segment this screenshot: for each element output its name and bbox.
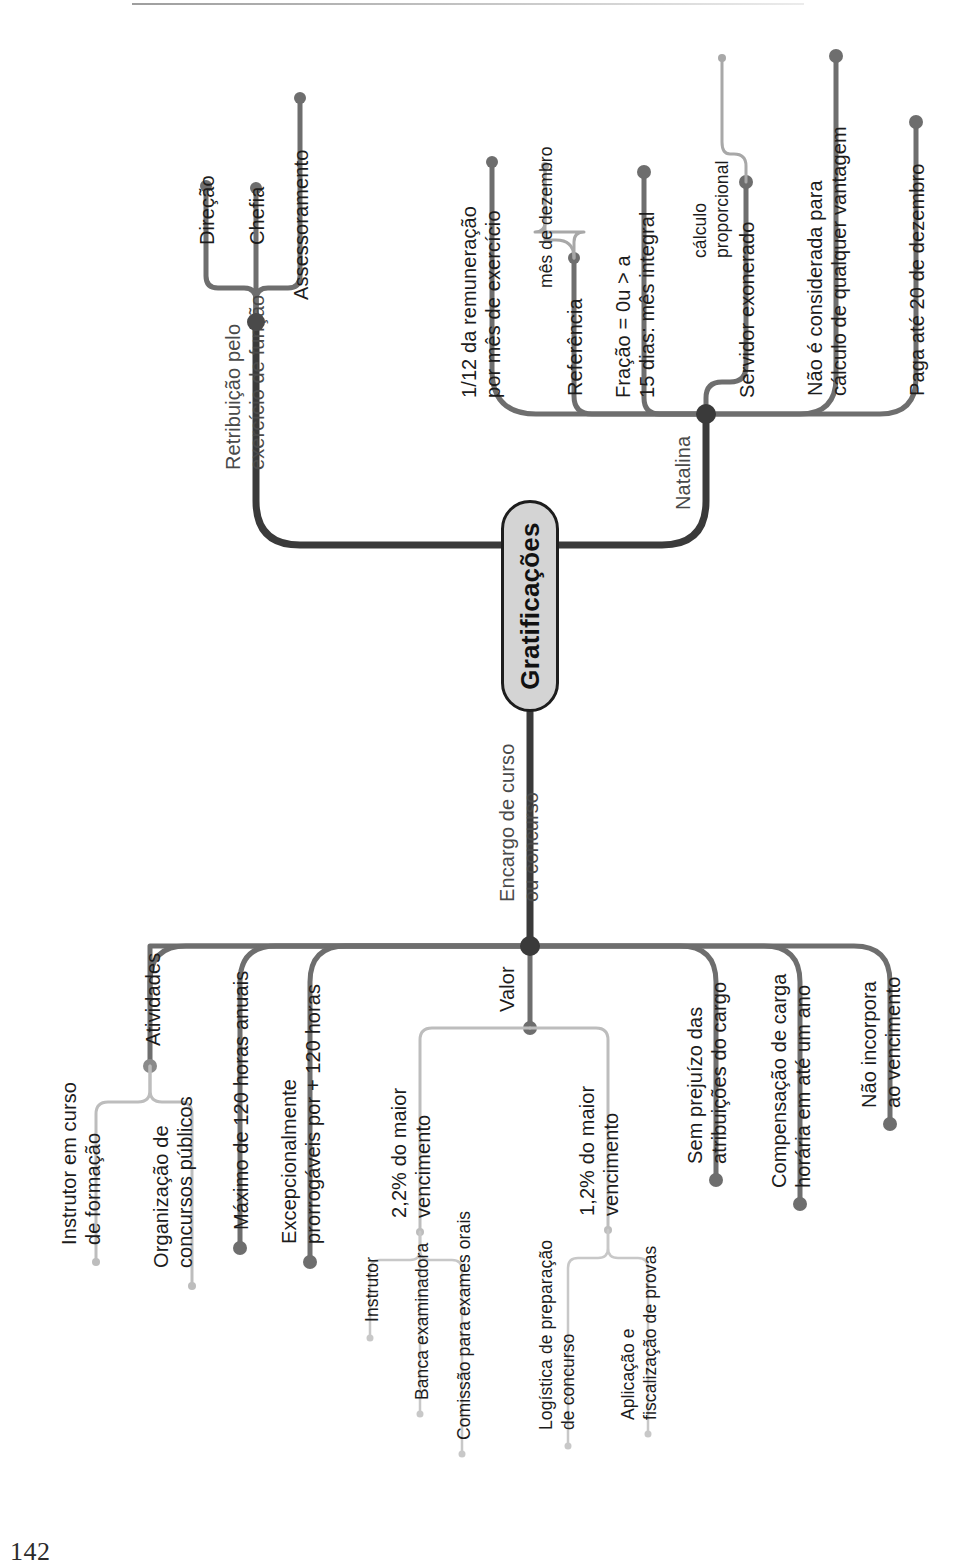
label-instrutor[interactable]: Instrutor	[362, 1257, 382, 1322]
branch-1-12	[492, 162, 706, 414]
branch-atividades-stem	[150, 946, 530, 1066]
mindmap-page: Gratificações Direção Chefia Assessorame…	[0, 0, 961, 1565]
label-valor[interactable]: Valor	[496, 966, 519, 1012]
label-encargo-line2[interactable]: ou concurso	[520, 792, 543, 902]
label-aplicacao-line1[interactable]: Aplicação e	[618, 1328, 638, 1420]
branch-atividades	[150, 946, 530, 1000]
dot-nao-considerada	[829, 49, 843, 63]
label-paga-ate[interactable]: Paga até 20 de dezembro	[906, 164, 929, 396]
label-2-2-line1[interactable]: 2,2% do maior	[388, 1088, 411, 1218]
label-comissao[interactable]: Comissão para exames orais	[454, 1211, 474, 1440]
label-maximo-120[interactable]: Máximo de 120 horas anuais	[230, 971, 253, 1230]
dot-comissao	[459, 1451, 466, 1458]
label-1-2-line1[interactable]: 1,2% do maior	[576, 1086, 599, 1216]
dot-sem-prejuizo	[709, 1173, 723, 1187]
label-fracao-line2[interactable]: 15 dias: mês integral	[636, 211, 659, 398]
label-retribuicao-line2[interactable]: exercício de função	[246, 295, 269, 470]
dot-paga-ate	[909, 115, 923, 129]
label-calculo-line2[interactable]: proporcional	[712, 160, 732, 258]
dot-organizacao	[188, 1282, 196, 1290]
label-nao-considerada-line1[interactable]: Não é considerada para	[804, 180, 827, 396]
branch-2-2	[420, 1028, 530, 1232]
label-compensacao-line2[interactable]: horária em até um ano	[792, 985, 815, 1188]
page-number: 142	[10, 1537, 51, 1565]
label-nao-considerada-line2[interactable]: cálculo de qualquer vantagem	[828, 126, 851, 396]
label-logistica-line2[interactable]: de concurso	[558, 1334, 578, 1430]
dot-logistica	[565, 1443, 572, 1450]
root-node[interactable]: Gratificações	[501, 500, 559, 712]
dot-maximo-120	[233, 1241, 247, 1255]
label-organizacao-line2[interactable]: concursos públicos	[174, 1096, 197, 1268]
hub-natalina	[696, 404, 716, 424]
label-instrutor-curso-line2[interactable]: de formação	[82, 1133, 105, 1245]
label-1-12-line1[interactable]: 1/12 da remuneração	[458, 206, 481, 398]
label-sem-prejuizo-line1[interactable]: Sem prejuízo das	[684, 1007, 707, 1164]
label-organizacao-line1[interactable]: Organização de	[150, 1125, 173, 1268]
dot-aplicacao	[645, 1431, 652, 1438]
dot-calculo-proporcional	[718, 54, 726, 62]
label-mes-dezembro[interactable]: mês de dezembro	[536, 146, 556, 288]
dot-instrutor-curso	[92, 1258, 100, 1266]
label-calculo-line1[interactable]: cálculo	[690, 203, 710, 258]
root-node-label: Gratificações	[515, 522, 546, 689]
label-excepcionalmente-line1[interactable]: Excepcionalmente	[278, 1079, 301, 1244]
dot-assessoramento	[294, 92, 306, 104]
label-direcao[interactable]: Direção	[196, 175, 219, 245]
label-retribuicao-line1[interactable]: Retribuição pelo	[222, 324, 245, 470]
label-banca[interactable]: Banca examinadora	[412, 1243, 432, 1400]
label-referencia[interactable]: Referência	[564, 298, 587, 396]
label-nao-incorpora-line2[interactable]: ao vencimento	[882, 977, 905, 1108]
label-excepcionalmente-line2[interactable]: prorrogáveis por + 120 horas	[302, 984, 325, 1244]
dot-fracao	[637, 165, 651, 179]
dot-nao-incorpora	[883, 1117, 897, 1131]
label-fracao-line1[interactable]: Fração = 0u > a	[612, 255, 635, 398]
label-compensacao-line1[interactable]: Compensação de carga	[768, 974, 791, 1188]
label-1-12-line2[interactable]: por mês de exercício	[482, 210, 505, 398]
label-assessoramento[interactable]: Assessoramento	[290, 150, 313, 300]
branch-compensacao	[530, 946, 800, 1204]
label-nao-incorpora-line1[interactable]: Não incorpora	[858, 981, 881, 1108]
label-logistica-line1[interactable]: Logística de preparação	[536, 1240, 556, 1430]
label-instrutor-curso-line1[interactable]: Instrutor em curso	[58, 1082, 81, 1245]
label-chefia[interactable]: Chefia	[246, 187, 269, 245]
hub-encargo	[520, 936, 540, 956]
label-atividades[interactable]: Atividades	[142, 953, 165, 1046]
dot-compensacao	[793, 1197, 807, 1211]
label-natalina[interactable]: Natalina	[672, 436, 695, 510]
label-aplicacao-line2[interactable]: fiscalização de provas	[640, 1246, 660, 1420]
label-servidor-exonerado[interactable]: Servidor exonerado	[736, 222, 759, 398]
dot-banca	[417, 1411, 424, 1418]
label-encargo-line1[interactable]: Encargo de curso	[496, 744, 519, 902]
dot-excepcionalmente	[303, 1255, 317, 1269]
dot-1-12	[486, 156, 498, 168]
label-2-2-line2[interactable]: vencimento	[412, 1115, 435, 1218]
dot-instrutor	[367, 1335, 374, 1342]
label-sem-prejuizo-line2[interactable]: atribuições do cargo	[708, 982, 731, 1164]
label-1-2-line2[interactable]: vencimento	[600, 1113, 623, 1216]
